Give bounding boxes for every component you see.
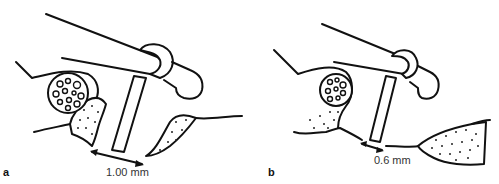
measurement-label-a: 1.00 mm (106, 166, 149, 178)
diagram-a-drawing (0, 0, 250, 184)
panel-label-a: a (3, 166, 9, 178)
panel-label-b: b (268, 166, 275, 178)
panel-a: a 1.00 mm (0, 0, 250, 184)
panel-b: b 0.6 mm (250, 0, 499, 184)
measurement-label-b: 0.6 mm (374, 154, 411, 166)
